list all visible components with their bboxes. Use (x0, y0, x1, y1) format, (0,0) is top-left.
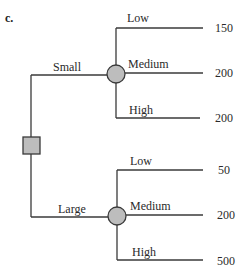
payoff-value-large-medium: 200 (217, 209, 235, 221)
part-label: c. (5, 12, 13, 24)
payoff-value-large-low: 50 (218, 164, 230, 176)
branch-label-large: Large (58, 203, 86, 215)
outcome-label-small-high: High (129, 104, 153, 116)
chance-circle-icon-large (108, 207, 126, 225)
outcome-label-large-medium: Medium (130, 200, 171, 212)
decision-square-icon (23, 137, 40, 154)
decision-tree-diagram: c. Small Large Low Medium High Low Mediu… (0, 0, 240, 277)
payoff-value-small-low: 150 (215, 22, 233, 34)
chance-circle-icon-small (107, 65, 125, 83)
payoff-value-small-medium: 200 (215, 67, 233, 79)
outcome-label-large-low: Low (130, 155, 152, 167)
branch-label-small: Small (53, 61, 81, 73)
payoff-value-large-high: 500 (217, 255, 235, 267)
outcome-label-large-high: High (132, 246, 156, 258)
outcome-label-small-medium: Medium (128, 58, 169, 70)
payoff-value-small-high: 200 (215, 112, 233, 124)
tree-lines (0, 0, 240, 277)
outcome-label-small-low: Low (127, 12, 149, 24)
